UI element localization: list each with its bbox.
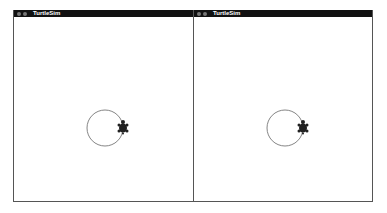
- window-title: TurtleSim: [213, 10, 240, 17]
- circle-path: [87, 110, 123, 146]
- close-button[interactable]: [197, 12, 201, 16]
- turtle-canvas: [14, 17, 193, 201]
- title-bar[interactable]: TurtleSim: [194, 10, 372, 17]
- title-bar[interactable]: TurtleSim: [14, 10, 193, 17]
- turtlesim-window-left[interactable]: TurtleSim: [13, 10, 194, 202]
- close-button[interactable]: [17, 12, 21, 16]
- circle-path: [267, 110, 303, 146]
- turtlesim-window-right[interactable]: TurtleSim: [193, 10, 373, 202]
- turtle-canvas: [194, 17, 372, 201]
- minimize-button[interactable]: [203, 12, 207, 16]
- turtle-path-drawing: [194, 17, 374, 202]
- turtle-icon: [118, 120, 129, 135]
- turtle-path-drawing: [14, 17, 194, 202]
- window-title: TurtleSim: [33, 10, 60, 17]
- minimize-button[interactable]: [23, 12, 27, 16]
- turtle-icon: [298, 120, 309, 135]
